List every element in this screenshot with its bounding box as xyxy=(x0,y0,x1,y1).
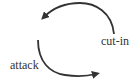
attack-label: attack xyxy=(10,59,39,71)
upper-curved-arrow xyxy=(44,3,114,34)
lower-curved-arrow xyxy=(38,40,96,76)
cut-in-label: cut-in xyxy=(101,35,129,47)
cycle-diagram: attack cut-in xyxy=(0,0,139,79)
